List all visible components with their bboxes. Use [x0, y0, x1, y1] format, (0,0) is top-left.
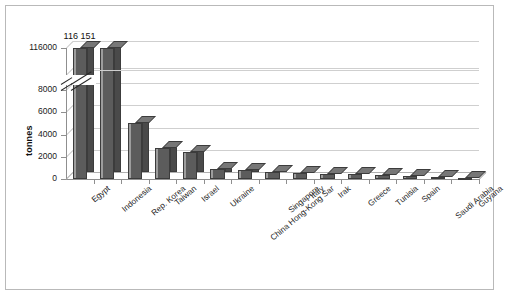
bar	[210, 162, 231, 179]
x-axis-line	[66, 179, 479, 180]
gridline	[73, 68, 479, 69]
y-tick-label: 0	[6, 174, 57, 183]
x-tick	[396, 179, 397, 184]
x-tick	[451, 179, 452, 184]
x-tick-label: Egypt	[90, 184, 112, 204]
bar	[375, 168, 396, 179]
bar-front-face	[293, 173, 307, 179]
bar-front-face	[183, 152, 197, 179]
bar-front-face	[375, 175, 389, 179]
bar	[265, 165, 286, 179]
x-tick-label: Spain	[420, 184, 442, 204]
x-tick	[204, 179, 205, 184]
x-tick	[369, 179, 370, 184]
bar-top-face	[217, 162, 238, 169]
y-tick-label: 6000	[6, 107, 57, 116]
bar-front-face	[348, 174, 362, 179]
x-tick	[424, 179, 425, 184]
y-tick-label: 116000	[6, 43, 57, 52]
plot-area: 02000400060008000116000tonnesEgypt116 15…	[6, 6, 495, 291]
x-tick-label: Israel	[200, 184, 221, 204]
x-tick	[231, 179, 232, 184]
gridline	[73, 83, 479, 84]
gridline	[94, 70, 479, 71]
bar-top-face	[438, 170, 459, 177]
bar	[238, 163, 259, 179]
bar-front-face	[210, 169, 224, 179]
gridline	[73, 105, 479, 106]
figure-border: 02000400060008000116000tonnesEgypt116 15…	[5, 5, 494, 290]
bar	[348, 167, 369, 179]
bar	[320, 167, 341, 179]
bar-front-face	[100, 48, 114, 179]
x-tick	[121, 179, 122, 184]
y-tick	[61, 48, 66, 49]
bar	[100, 41, 121, 179]
y-axis-line	[66, 48, 67, 179]
x-tick	[94, 179, 95, 184]
y-tick-label: 8000	[6, 85, 57, 94]
x-tick	[341, 179, 342, 184]
y-tick	[61, 112, 66, 113]
bar	[183, 145, 204, 179]
x-tick-label: Indonesia	[121, 184, 154, 214]
x-tick	[149, 179, 150, 184]
bar	[73, 41, 94, 179]
bar	[293, 166, 314, 179]
x-tick	[176, 179, 177, 184]
y-axis-label: tonnes	[24, 125, 34, 156]
bar-front-face	[458, 178, 472, 180]
bar-top-face	[107, 41, 128, 48]
bar	[458, 171, 479, 180]
bar-top-face	[135, 116, 156, 123]
x-tick-label: Tunisia	[394, 184, 420, 208]
bar-top-face	[245, 163, 266, 170]
bar-top-face	[162, 141, 183, 148]
x-tick-label: Ukraine	[229, 184, 256, 209]
x-tick	[259, 179, 260, 184]
bar-side-face	[114, 41, 121, 172]
bar-front-face	[265, 172, 279, 179]
bar-front-face	[73, 48, 87, 179]
x-tick	[314, 179, 315, 184]
bar-top-face	[80, 41, 101, 48]
bar-side-face	[142, 116, 149, 172]
bar	[155, 141, 176, 179]
bar	[128, 116, 149, 179]
x-tick-label: Irak	[336, 184, 352, 200]
y-tick	[61, 135, 66, 136]
bar-front-face	[155, 148, 169, 179]
bar-side-face	[87, 41, 94, 172]
x-tick	[479, 179, 480, 184]
y-tick	[61, 157, 66, 158]
bar-front-face	[320, 174, 334, 179]
bar-front-face	[403, 176, 417, 179]
bar-front-face	[238, 170, 252, 179]
bar-front-face	[128, 123, 142, 179]
bar-data-label: 116 151	[64, 31, 96, 41]
bar	[431, 170, 452, 179]
bar-front-face	[431, 177, 445, 179]
x-tick-label: Greece	[366, 184, 392, 208]
bar	[403, 169, 424, 179]
x-tick	[286, 179, 287, 184]
x-tick-label: China Hong-Kong Sar	[269, 184, 336, 242]
bar-top-face	[355, 167, 376, 174]
gridline	[73, 41, 479, 42]
